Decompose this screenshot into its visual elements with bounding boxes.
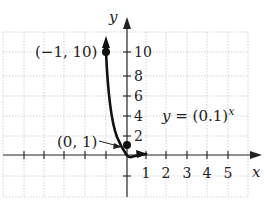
annotation-neg1-10: (−1, 10)	[35, 43, 97, 61]
y-axis-arrow-icon	[123, 17, 131, 29]
y-axis-label: y	[108, 8, 118, 26]
x-tick-label: 5	[224, 165, 233, 181]
y-tick-label: 2	[134, 128, 143, 144]
chart-canvas: 1 2 3 4 5 2 4 6 8 10 y x y = (0.1)x (−1,…	[0, 0, 265, 203]
x-tick-label: 4	[203, 165, 212, 181]
x-tick-label: 1	[142, 165, 151, 181]
point-neg1-10	[102, 48, 110, 56]
y-tick-label: 10	[134, 44, 152, 60]
x-tick-label: 2	[162, 165, 171, 181]
function-label: y = (0.1)x	[161, 105, 235, 125]
y-tick-label: 4	[134, 108, 143, 124]
x-axis-arrow-icon	[250, 151, 262, 159]
x-tick-label: 3	[183, 165, 192, 181]
annotation-0-1: (0, 1)	[57, 133, 97, 151]
x-axis-label: x	[252, 163, 261, 181]
y-tick-label: 6	[134, 88, 143, 104]
point-0-1	[123, 141, 131, 149]
y-tick-label: 8	[134, 68, 143, 84]
